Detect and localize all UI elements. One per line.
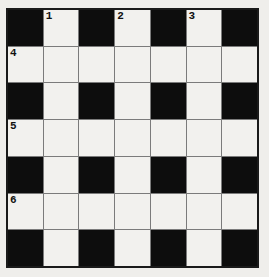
clue-number: 3 <box>189 10 196 22</box>
grid-cell-r5c6[interactable] <box>187 157 222 193</box>
grid-cell-r1c3 <box>79 10 114 46</box>
grid-cell-r6c7[interactable] <box>222 194 257 230</box>
crossword-page: 123456 <box>0 0 269 277</box>
clue-number: 4 <box>10 47 17 59</box>
grid-cell-r3c2[interactable] <box>44 83 79 119</box>
grid-cell-r6c1[interactable]: 6 <box>8 194 43 230</box>
grid-cell-r3c6[interactable] <box>187 83 222 119</box>
grid-cell-r2c5[interactable] <box>151 47 186 83</box>
grid-cell-r2c7[interactable] <box>222 47 257 83</box>
grid-cell-r1c6[interactable]: 3 <box>187 10 222 46</box>
grid-cell-r2c3[interactable] <box>79 47 114 83</box>
grid-cell-r7c7 <box>222 230 257 266</box>
crossword-grid: 123456 <box>6 8 259 268</box>
grid-cell-r6c3[interactable] <box>79 194 114 230</box>
grid-cell-r5c7 <box>222 157 257 193</box>
grid-cell-r7c1 <box>8 230 43 266</box>
grid-cell-r1c5 <box>151 10 186 46</box>
grid-cell-r4c6[interactable] <box>187 120 222 156</box>
grid-cell-r5c4[interactable] <box>115 157 150 193</box>
grid-cell-r4c7[interactable] <box>222 120 257 156</box>
grid-cell-r5c2[interactable] <box>44 157 79 193</box>
grid-cell-r7c2[interactable] <box>44 230 79 266</box>
grid-cell-r1c1 <box>8 10 43 46</box>
grid-cell-r2c6[interactable] <box>187 47 222 83</box>
grid-cell-r3c5 <box>151 83 186 119</box>
grid-cell-r4c2[interactable] <box>44 120 79 156</box>
grid-cell-r4c4[interactable] <box>115 120 150 156</box>
grid-cell-r4c1[interactable]: 5 <box>8 120 43 156</box>
grid-cell-r6c4[interactable] <box>115 194 150 230</box>
grid-cell-r5c5 <box>151 157 186 193</box>
grid-cell-r1c4[interactable]: 2 <box>115 10 150 46</box>
grid-cell-r2c1[interactable]: 4 <box>8 47 43 83</box>
grid-cell-r7c4[interactable] <box>115 230 150 266</box>
grid-cell-r1c2[interactable]: 1 <box>44 10 79 46</box>
clue-number: 6 <box>10 194 17 206</box>
grid-cell-r1c7 <box>222 10 257 46</box>
grid-cell-r6c2[interactable] <box>44 194 79 230</box>
clue-number: 2 <box>117 10 124 22</box>
grid-cell-r6c5[interactable] <box>151 194 186 230</box>
grid-cell-r3c4[interactable] <box>115 83 150 119</box>
grid-cell-r5c3 <box>79 157 114 193</box>
grid-cell-r2c4[interactable] <box>115 47 150 83</box>
clue-number: 5 <box>10 120 17 132</box>
grid-cell-r3c7 <box>222 83 257 119</box>
grid-cell-r6c6[interactable] <box>187 194 222 230</box>
grid-cell-r2c2[interactable] <box>44 47 79 83</box>
grid-cell-r5c1 <box>8 157 43 193</box>
grid-cell-r3c3 <box>79 83 114 119</box>
grid-cell-r4c3[interactable] <box>79 120 114 156</box>
grid-cell-r3c1 <box>8 83 43 119</box>
grid-cell-r7c3 <box>79 230 114 266</box>
clue-number: 1 <box>46 10 53 22</box>
grid-cell-r7c5 <box>151 230 186 266</box>
grid-cell-r4c5[interactable] <box>151 120 186 156</box>
grid-cell-r7c6[interactable] <box>187 230 222 266</box>
